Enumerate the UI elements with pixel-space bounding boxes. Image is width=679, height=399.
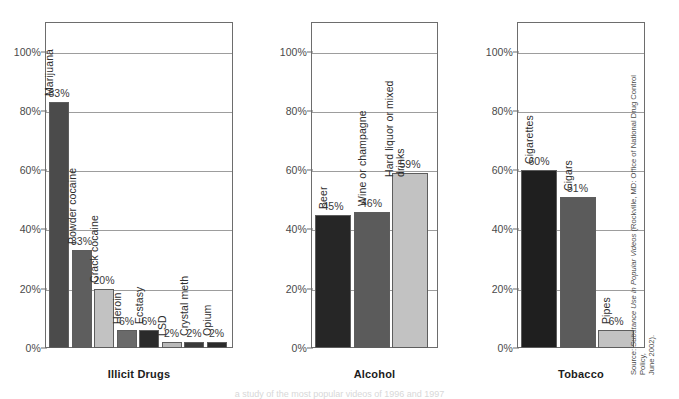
bar-category-label: Heroin (111, 293, 123, 325)
y-axis-tick-label: 40% (479, 223, 513, 235)
bar[interactable] (117, 330, 137, 348)
y-axis-tick-mark (513, 288, 519, 289)
y-axis-tick-mark (513, 170, 519, 171)
y-axis-tick-label: 0% (7, 342, 41, 354)
y-axis-tick-label: 100% (7, 46, 41, 58)
y-axis-tick-mark (41, 170, 47, 171)
y-axis-tick-mark (307, 110, 313, 111)
y-axis-tick-mark (41, 348, 47, 349)
chart-panel-illicit-drugs: 83%Marijuana33%Powder cocaine20%Crack co… (45, 22, 233, 348)
bar[interactable] (521, 170, 557, 348)
y-axis-tick-mark (513, 51, 519, 52)
y-axis-tick-label: 60% (7, 164, 41, 176)
bar-category-label: Cigarettes (523, 115, 535, 164)
panel-title-alcohol: Alcohol (311, 368, 438, 380)
y-axis-tick-label: 20% (479, 283, 513, 295)
y-axis-tick-label: 80% (7, 105, 41, 117)
y-axis-tick-mark (41, 229, 47, 230)
bar[interactable] (207, 342, 227, 348)
bar[interactable] (162, 342, 182, 348)
y-axis-tick-label: 0% (273, 342, 307, 354)
source-title: Substance Use in Popular Videos (629, 234, 638, 347)
bar-category-label: Marijuana (43, 49, 55, 96)
chart-panel-tobacco: 60%Cigarettes51%Cigars6%Pipes (517, 22, 645, 348)
bar[interactable] (315, 215, 351, 348)
bar-group-illicit-drugs: 83%Marijuana33%Powder cocaine20%Crack co… (45, 22, 233, 348)
y-axis-tick-mark (41, 288, 47, 289)
y-axis-tick-mark (513, 229, 519, 230)
y-axis-tick-mark (41, 110, 47, 111)
y-axis-tick-mark (41, 51, 47, 52)
bar-category-label: Crack cocaine (88, 215, 100, 283)
bar-category-label: Wine or champagne (356, 110, 368, 206)
bar-category-label: Opium (201, 305, 213, 336)
source-line2: June 2002). (647, 335, 656, 375)
bar[interactable] (184, 342, 204, 348)
bar-category-label: Pipes (600, 297, 612, 324)
y-axis-tick-label: 100% (273, 46, 307, 58)
bottom-caption: a study of the most popular videos of 19… (0, 389, 679, 399)
y-axis-tick-mark (307, 51, 313, 52)
source-prefix: Source: (629, 347, 638, 375)
bar[interactable] (354, 212, 390, 348)
y-axis-tick-mark (307, 229, 313, 230)
chart-panel-alcohol: 45%Beer46%Wine or champagne59%Hard liquo… (311, 22, 438, 348)
y-axis-tick-label: 20% (273, 283, 307, 295)
y-axis-tick-label: 40% (7, 223, 41, 235)
y-axis-tick-label: 0% (479, 342, 513, 354)
bar-category-label: Beer (317, 186, 329, 209)
y-axis-tick-label: 80% (479, 105, 513, 117)
y-axis-tick-mark (307, 348, 313, 349)
y-axis-tick-label: 100% (479, 46, 513, 58)
bar-group-alcohol: 45%Beer46%Wine or champagne59%Hard liquo… (311, 22, 438, 348)
y-axis-tick-label: 20% (7, 283, 41, 295)
source-note: Source: Substance Use in Popular Videos … (629, 75, 656, 375)
bar-category-label: LSD (156, 315, 168, 336)
bar-category-label: Cigars (562, 160, 574, 191)
y-axis-tick-mark (307, 288, 313, 289)
y-axis-tick-label: 80% (273, 105, 307, 117)
panel-title-illicit-drugs: Illicit Drugs (45, 368, 233, 380)
panel-title-tobacco: Tobacco (517, 368, 645, 380)
bar[interactable] (392, 173, 428, 348)
bar-category-label: Hard liquor or mixeddrinks (384, 57, 406, 177)
bar-category-label: Crystal meth (178, 276, 190, 336)
bar-group-tobacco: 60%Cigarettes51%Cigars6%Pipes (517, 22, 645, 348)
y-axis-tick-mark (513, 110, 519, 111)
y-axis-tick-label: 60% (479, 164, 513, 176)
bar[interactable] (560, 197, 596, 348)
y-axis-tick-mark (513, 348, 519, 349)
y-axis-tick-mark (307, 170, 313, 171)
bar-category-label: Ecstasy (133, 287, 145, 324)
y-axis-tick-label: 60% (273, 164, 307, 176)
bar-category-label: Powder cocaine (66, 168, 78, 244)
y-axis-tick-label: 40% (273, 223, 307, 235)
